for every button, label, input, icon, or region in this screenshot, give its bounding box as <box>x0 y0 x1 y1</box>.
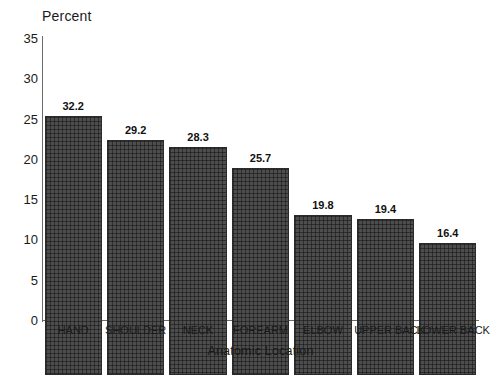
bar-value-label: 16.4 <box>419 227 476 239</box>
category-label: HAND <box>42 324 104 336</box>
bar-value-label: 19.8 <box>294 199 351 211</box>
y-tick-label: 15 <box>4 192 38 207</box>
y-tick-label: 30 <box>4 71 38 86</box>
y-tick-label: 20 <box>4 151 38 166</box>
category-label: SHOULDER <box>104 324 166 336</box>
category-label: NECK <box>167 324 229 336</box>
y-tick-label: 25 <box>4 111 38 126</box>
x-axis-title: Anatomic Location <box>42 344 479 358</box>
y-tick-label: 35 <box>4 31 38 46</box>
y-axis-tick-labels: 05101520253035 <box>0 0 38 375</box>
bar-value-label: 19.4 <box>357 203 414 215</box>
y-tick-label: 5 <box>4 272 38 287</box>
category-label: ELBOW <box>292 324 354 336</box>
bar-value-label: 28.3 <box>169 131 226 143</box>
bar-value-label: 29.2 <box>107 124 164 136</box>
bar-value-label: 32.2 <box>45 100 102 112</box>
bar-chart: Percent 05101520253035 32.229.228.325.71… <box>0 0 500 375</box>
x-axis-category-labels: HANDSHOULDERNECKFOREARMELBOWUPPER BACKLO… <box>42 324 479 342</box>
category-label: UPPER BACK <box>354 324 416 336</box>
category-label: LOWER BACK <box>417 324 479 336</box>
y-tick-label: 0 <box>4 313 38 328</box>
category-label: FOREARM <box>229 324 291 336</box>
bar-value-label: 25.7 <box>232 152 289 164</box>
y-tick-label: 10 <box>4 232 38 247</box>
bars-layer: 32.229.228.325.719.819.416.4 <box>42 0 479 375</box>
